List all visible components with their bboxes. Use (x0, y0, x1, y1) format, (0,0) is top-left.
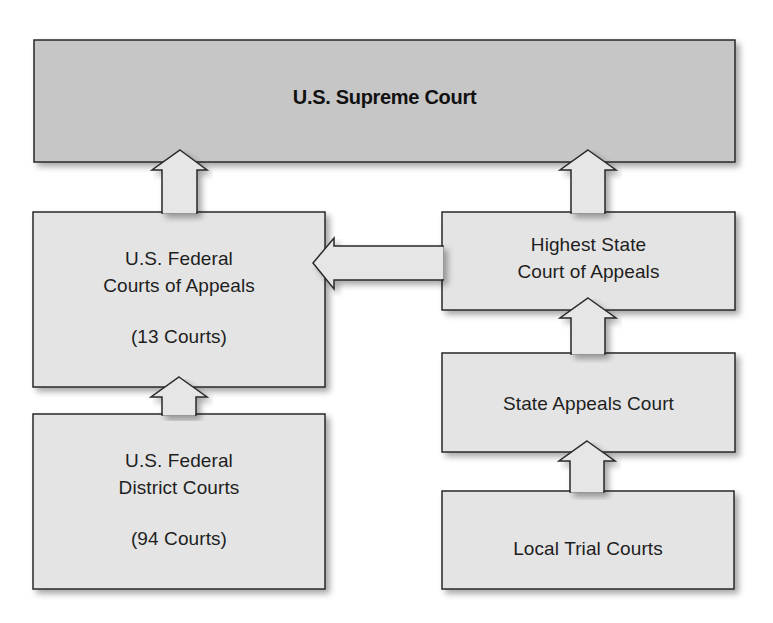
federal-appeals-count: (13 Courts) (131, 323, 227, 350)
federal-district-line1: U.S. Federal (125, 447, 233, 474)
highest-state-label: Highest State Court of Appeals (442, 212, 735, 310)
federal-appeals-line1: U.S. Federal (125, 245, 233, 272)
supreme-court-label: U.S. Supreme Court (34, 40, 735, 162)
court-hierarchy-diagram: U.S. Supreme Court U.S. Federal Courts o… (0, 0, 773, 623)
local-trial-text: Local Trial Courts (513, 535, 663, 562)
federal-district-label: U.S. Federal District Courts (94 Courts) (33, 414, 325, 589)
highest-state-line2: Court of Appeals (517, 258, 659, 285)
federal-district-count: (94 Courts) (131, 525, 227, 552)
arrow-left-icon (313, 238, 443, 289)
federal-appeals-label: U.S. Federal Courts of Appeals (13 Court… (33, 212, 325, 387)
state-appeals-text: State Appeals Court (503, 390, 674, 417)
local-trial-label: Local Trial Courts (442, 491, 734, 589)
federal-district-line2: District Courts (119, 474, 240, 501)
supreme-court-text: U.S. Supreme Court (293, 84, 477, 111)
federal-appeals-line2: Courts of Appeals (103, 272, 255, 299)
highest-state-line1: Highest State (531, 231, 646, 258)
state-appeals-label: State Appeals Court (442, 353, 735, 452)
